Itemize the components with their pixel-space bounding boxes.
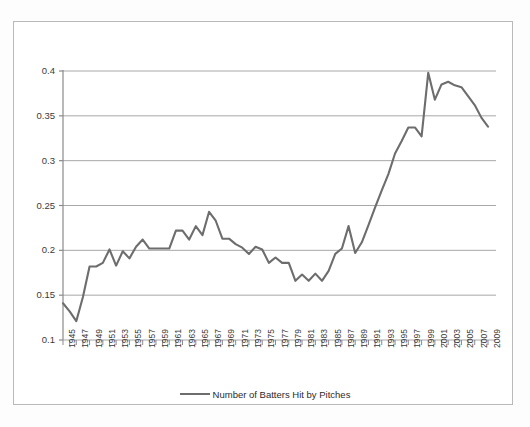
x-tick-label: 1969 <box>226 329 236 348</box>
x-tick-label: 1961 <box>173 329 183 348</box>
x-tick-label: 1983 <box>319 329 329 348</box>
x-tick-label: 1987 <box>346 329 356 348</box>
x-tick-label: 1991 <box>372 329 382 348</box>
x-tick-label: 1977 <box>280 329 290 348</box>
y-tick-label: 0.3 <box>14 155 55 166</box>
x-tick-label: 1949 <box>94 329 104 348</box>
x-tick-label: 1967 <box>213 329 223 348</box>
x-tick-label: 1955 <box>133 329 143 348</box>
x-tick-label: 2003 <box>452 329 462 348</box>
data-series-line <box>63 73 488 321</box>
x-tick-label: 1975 <box>266 329 276 348</box>
x-tick-label: 1999 <box>426 329 436 348</box>
x-tick-label: 1993 <box>386 329 396 348</box>
x-tick-label: 1953 <box>120 329 130 348</box>
x-tick-label: 1957 <box>147 329 157 348</box>
x-tick-label: 1995 <box>399 329 409 348</box>
y-tick-label: 0.1 <box>14 334 55 345</box>
x-tick-label: 2009 <box>492 329 502 348</box>
x-tick-label: 1951 <box>107 329 117 348</box>
x-tick-label: 2005 <box>465 329 475 348</box>
y-tick-label: 0.25 <box>14 200 55 211</box>
x-tick-label: 1945 <box>67 329 77 348</box>
page-background: 0.10.150.20.250.30.350.4 194519471949195… <box>0 0 530 427</box>
chart-frame: 0.10.150.20.250.30.350.4 194519471949195… <box>13 21 513 405</box>
x-tick-label: 1981 <box>306 329 316 348</box>
x-tick-label: 1985 <box>333 329 343 348</box>
x-tick-label: 1971 <box>240 329 250 348</box>
y-tick-label: 0.2 <box>14 244 55 255</box>
x-tick-label: 1989 <box>359 329 369 348</box>
x-tick-label: 1963 <box>187 329 197 348</box>
x-tick-label: 2007 <box>479 329 489 348</box>
x-tick-label: 1959 <box>160 329 170 348</box>
x-tick-label: 1979 <box>293 329 303 348</box>
x-tick-label: 1965 <box>200 329 210 348</box>
x-tick-label: 1997 <box>412 329 422 348</box>
x-tick-label: 2001 <box>439 329 449 348</box>
y-tick-label: 0.15 <box>14 289 55 300</box>
y-tick-label: 0.35 <box>14 110 55 121</box>
y-tick-label: 0.4 <box>14 65 55 76</box>
x-tick-label: 1947 <box>80 329 90 348</box>
x-tick-label: 1973 <box>253 329 263 348</box>
